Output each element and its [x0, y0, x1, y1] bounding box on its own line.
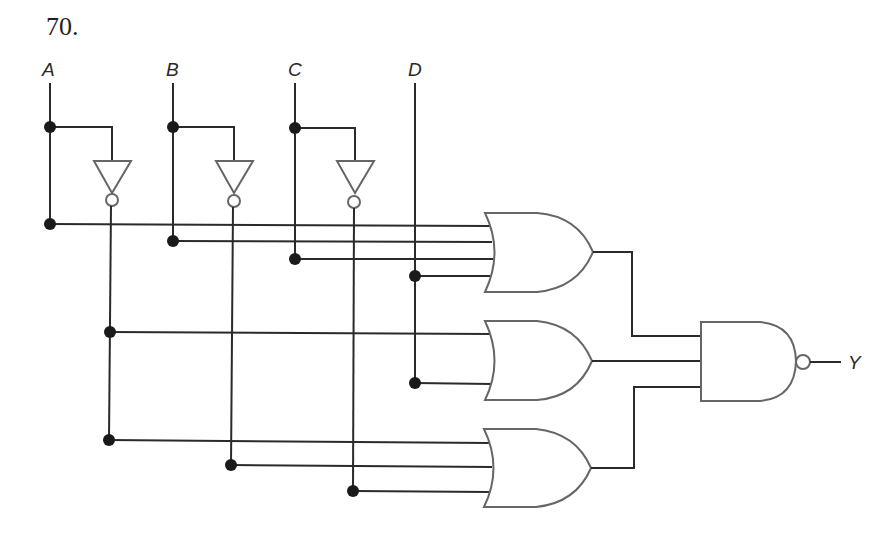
junction-dot	[44, 121, 56, 133]
inverter-b	[216, 161, 253, 207]
junction-dot	[225, 459, 237, 471]
junction-dot	[289, 253, 301, 265]
nand-gate	[701, 322, 796, 401]
input-label-b: B	[166, 59, 179, 80]
logic-circuit-diagram: A B C D	[0, 0, 896, 544]
or-to-nand-wiring	[591, 252, 701, 468]
junction-dot	[409, 270, 421, 282]
input-label-c: C	[288, 59, 302, 80]
inverter-a	[94, 161, 131, 206]
inverter-c-output-wiring	[347, 208, 490, 497]
nand-output-bubble	[796, 355, 810, 369]
input-d-wiring	[409, 83, 492, 389]
inverter-b-output-wiring	[225, 207, 492, 471]
junction-dot	[347, 485, 359, 497]
input-label-a: A	[41, 59, 55, 80]
input-label-d: D	[408, 59, 422, 80]
junction-dot	[409, 377, 421, 389]
output-label-y: Y	[848, 352, 862, 373]
or-gate-2	[485, 321, 592, 400]
input-c-wiring	[289, 83, 493, 265]
junction-dot	[44, 218, 56, 230]
inverter-c	[337, 161, 374, 208]
or-gate-3	[484, 429, 591, 507]
junction-dot	[167, 235, 179, 247]
junction-dot	[289, 122, 301, 134]
junction-dot	[167, 121, 179, 133]
junction-dot	[104, 326, 116, 338]
or-gate-1	[485, 213, 593, 292]
input-b-wiring	[167, 83, 492, 247]
junction-dot	[103, 434, 115, 446]
